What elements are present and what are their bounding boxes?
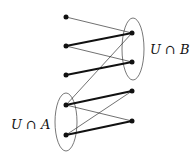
node-r4: [130, 119, 135, 124]
set-b-ellipse: [122, 18, 144, 80]
edge-l3-r2: [66, 62, 132, 75]
edge-l5-r4: [66, 121, 132, 135]
node-l4: [64, 103, 69, 108]
set-a-ellipse: [55, 93, 77, 151]
node-r2: [130, 60, 135, 65]
edges: [66, 17, 132, 135]
node-l2: [64, 44, 69, 49]
edge-l1-r1: [66, 17, 132, 33]
node-l1: [64, 15, 69, 20]
label-set-b: U ∩ B: [150, 42, 190, 57]
node-r1: [130, 31, 135, 36]
edge-l4-r3: [66, 91, 132, 105]
node-l3: [64, 73, 69, 78]
node-l5: [64, 133, 69, 138]
label-set-a: U ∩ A: [11, 117, 51, 132]
ellipses: [55, 18, 144, 151]
bipartite-graph: U ∩ B U ∩ A: [0, 0, 194, 158]
node-r3: [130, 89, 135, 94]
